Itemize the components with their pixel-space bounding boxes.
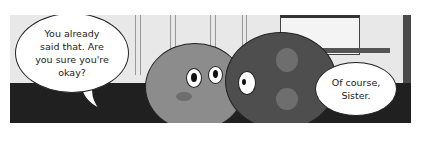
speech-bubble-sister: You already said that. Are you sure you'… xyxy=(15,15,129,93)
cabinet-line xyxy=(135,15,136,75)
speech-bubble-brother: Of course, Sister. xyxy=(315,62,397,116)
highlight-spot xyxy=(276,88,298,110)
door-frame xyxy=(403,15,411,90)
cabinet-line xyxy=(140,15,141,75)
right-eye xyxy=(208,66,223,84)
bubble-text: Of course, Sister. xyxy=(332,76,381,102)
bubble-text: You already said that. Are you sure you'… xyxy=(35,27,109,79)
comic-panel: You already said that. Are you sure you'… xyxy=(10,15,411,123)
blush xyxy=(176,92,192,101)
eye xyxy=(238,71,256,95)
highlight-spot xyxy=(276,48,298,72)
left-eye xyxy=(186,68,202,88)
